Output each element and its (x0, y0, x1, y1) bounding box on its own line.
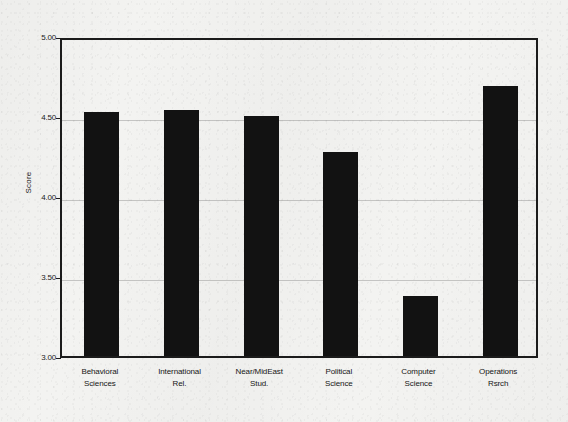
chart-page: Score 5.004.504.003.503.00 BehavioralSci… (0, 0, 568, 422)
bar-1[interactable] (84, 112, 119, 356)
y-tick-label-4-00: 4.00 (22, 193, 56, 202)
y-tick-label-5-00: 5.00 (22, 33, 56, 42)
y-tick-label-3-00: 3.00 (22, 353, 56, 362)
y-tick-label-4-50: 4.50 (22, 113, 56, 122)
gridline-3-50 (62, 280, 536, 281)
x-axis-label-line1: International (158, 367, 201, 376)
x-axis-label-6: OperationsRsrch (448, 366, 548, 390)
y-tick-mark-3-00 (56, 358, 61, 359)
x-axis-label-line1: Behavioral (81, 367, 118, 376)
bar-2[interactable] (164, 110, 199, 356)
x-axis-label-line1: Political (325, 367, 352, 376)
bar-4[interactable] (323, 152, 358, 356)
y-tick-label-3-50: 3.50 (22, 273, 56, 282)
plot-area (60, 38, 538, 358)
gridline-4-00 (62, 200, 536, 201)
gridline-4-50 (62, 120, 536, 121)
y-axis-title: Score (24, 172, 33, 194)
x-axis-label-line2: Rsrch (448, 378, 548, 390)
bar-3[interactable] (244, 116, 279, 356)
bar-6[interactable] (483, 86, 518, 356)
bar-5[interactable] (403, 296, 438, 356)
x-axis-label-line1: Operations (479, 367, 517, 376)
x-axis-label-line1: Computer (401, 367, 435, 376)
x-axis-label-line1: Near/MidEast (236, 367, 283, 376)
